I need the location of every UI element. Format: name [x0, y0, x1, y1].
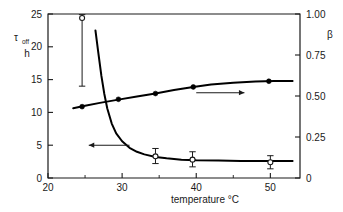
data-point-filled	[153, 91, 158, 96]
right-axis-tick-label: 0	[306, 173, 312, 184]
x-axis-tick-label: 50	[265, 182, 277, 193]
x-axis-title: temperature °C	[171, 194, 239, 205]
right-axis-title-beta: β	[327, 29, 333, 40]
data-point-filled	[116, 97, 121, 102]
left-axis-tick-label: 5	[36, 140, 42, 151]
figure-container: 0510152025 00.250.500.751.00 20304050 τ …	[0, 0, 343, 212]
x-axis-ticks	[48, 173, 270, 178]
right-arrow-annotation-head	[239, 90, 245, 95]
plot-frame	[48, 14, 300, 178]
right-axis-tick-label: 0.75	[306, 50, 326, 61]
curve-tau_off	[95, 30, 292, 161]
right-axis-tick-label: 0.50	[306, 91, 326, 102]
data-point-filled	[80, 104, 85, 109]
left-axis-title-tau: τ	[14, 32, 18, 43]
x-axis-tick-labels: 20304050	[42, 182, 276, 193]
left-arrow-annotation-head	[89, 143, 95, 148]
data-point-open	[153, 154, 158, 159]
left-axis-title-subscript: off	[22, 38, 29, 45]
data-curves	[73, 30, 292, 161]
x-axis-tick-label: 20	[42, 182, 54, 193]
data-point-open	[268, 160, 273, 165]
left-axis-tick-labels: 0510152025	[31, 9, 43, 184]
x-axis-tick-label: 40	[191, 182, 203, 193]
left-axis-ticks	[48, 14, 53, 178]
data-point-filled	[266, 79, 271, 84]
tau-off-beta-vs-temperature-chart: 0510152025 00.250.500.751.00 20304050 τ …	[0, 0, 343, 212]
data-point-open	[80, 15, 85, 20]
left-axis-tick-label: 20	[31, 41, 43, 52]
left-axis-unit-label: h	[24, 48, 30, 59]
right-axis-tick-label: 0.25	[306, 132, 326, 143]
right-axis-ticks	[295, 14, 300, 178]
left-axis-tick-label: 25	[31, 9, 43, 20]
right-axis-tick-label: 1.00	[306, 9, 326, 20]
left-axis-tick-label: 15	[31, 74, 43, 85]
data-point-filled	[191, 85, 196, 90]
right-axis-tick-labels: 00.250.500.751.00	[306, 9, 326, 184]
arrow-annotations	[89, 90, 245, 148]
x-axis-tick-label: 30	[117, 182, 129, 193]
left-axis-tick-label: 10	[31, 107, 43, 118]
data-point-open	[190, 157, 195, 162]
